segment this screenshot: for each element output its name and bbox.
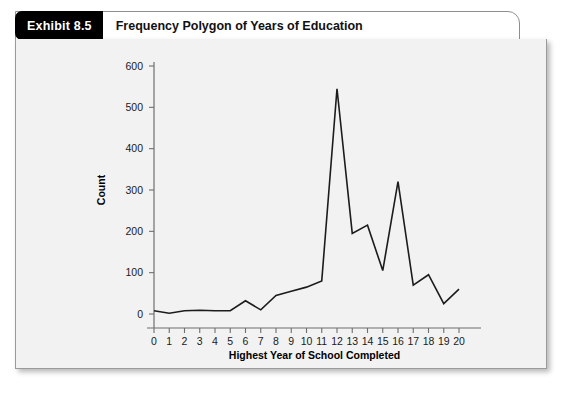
x-tick-label: 1 xyxy=(166,335,172,347)
y-axis-ticks: 0100200300400500600 xyxy=(125,60,154,320)
y-axis-title: Count xyxy=(95,174,107,205)
x-tick-label: 9 xyxy=(288,335,294,347)
y-tick-label: 0 xyxy=(137,308,143,320)
x-tick-label: 7 xyxy=(258,335,264,347)
x-tick-label: 20 xyxy=(453,335,465,347)
x-axis-ticks: 01234567891011121314151617181920 xyxy=(151,328,465,347)
x-tick-label: 8 xyxy=(273,335,279,347)
y-tick-label: 600 xyxy=(125,60,143,72)
y-tick-label: 100 xyxy=(125,266,143,278)
x-tick-label: 14 xyxy=(362,335,374,347)
x-axis-title: Highest Year of School Completed xyxy=(229,349,400,361)
exhibit-header: Exhibit 8.5 Frequency Polygon of Years o… xyxy=(15,11,520,40)
y-tick-label: 300 xyxy=(125,184,143,196)
x-tick-label: 3 xyxy=(197,335,203,347)
frequency-polygon-line xyxy=(154,89,459,313)
x-tick-label: 2 xyxy=(182,335,188,347)
x-tick-label: 6 xyxy=(243,335,249,347)
x-tick-label: 11 xyxy=(316,335,327,347)
exhibit-body-panel: 0100200300400500600 01234567891011121314… xyxy=(15,39,547,369)
chart-svg: 0100200300400500600 01234567891011121314… xyxy=(16,39,548,369)
y-tick-label: 500 xyxy=(125,101,143,113)
x-tick-label: 12 xyxy=(331,335,343,347)
x-tick-label: 18 xyxy=(423,335,435,347)
exhibit-number-badge: Exhibit 8.5 xyxy=(15,11,103,40)
x-tick-label: 19 xyxy=(438,335,450,347)
exhibit-card: Exhibit 8.5 Frequency Polygon of Years o… xyxy=(0,0,567,395)
x-tick-label: 4 xyxy=(212,335,218,347)
x-tick-label: 17 xyxy=(407,335,419,347)
x-tick-label: 13 xyxy=(346,335,358,347)
frequency-polygon-chart: 0100200300400500600 01234567891011121314… xyxy=(16,39,548,369)
x-tick-label: 5 xyxy=(227,335,233,347)
x-tick-label: 0 xyxy=(151,335,157,347)
x-tick-label: 16 xyxy=(392,335,404,347)
y-tick-label: 200 xyxy=(125,225,143,237)
exhibit-title: Frequency Polygon of Years of Education xyxy=(103,12,363,39)
x-tick-label: 15 xyxy=(377,335,389,347)
x-tick-label: 10 xyxy=(301,335,313,347)
y-tick-label: 400 xyxy=(125,142,143,154)
